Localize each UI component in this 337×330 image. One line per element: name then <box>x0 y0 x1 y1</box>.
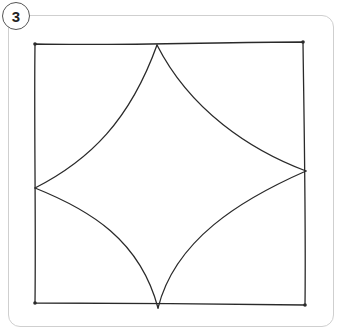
tangle-drawing <box>0 0 337 330</box>
step-number: 3 <box>12 8 20 25</box>
step-number-badge: 3 <box>2 2 30 30</box>
curved-star-bottom-left <box>35 188 158 308</box>
square-outline <box>35 42 306 305</box>
corner-dot-top-left <box>33 42 37 46</box>
corner-dot-bottom-right <box>303 303 307 307</box>
curved-star-top-right <box>157 45 306 171</box>
curved-star-right-bottom <box>158 171 306 308</box>
corner-dot-bottom-left <box>33 301 37 305</box>
corner-dot-top-right <box>301 40 305 44</box>
curved-star-left-top <box>35 45 157 188</box>
